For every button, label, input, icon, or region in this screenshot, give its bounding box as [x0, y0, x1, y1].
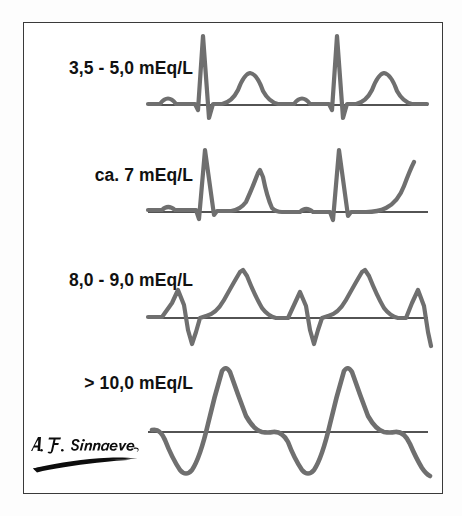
- ecg-waveform-critical: [152, 368, 430, 476]
- signature-sinnaeve: [27, 428, 149, 476]
- hyperkalemia-ecg-figure: 3,5 - 5,0 mEq/L ca. 7 mEq/L 8,0 - 9,0 mE…: [0, 0, 462, 516]
